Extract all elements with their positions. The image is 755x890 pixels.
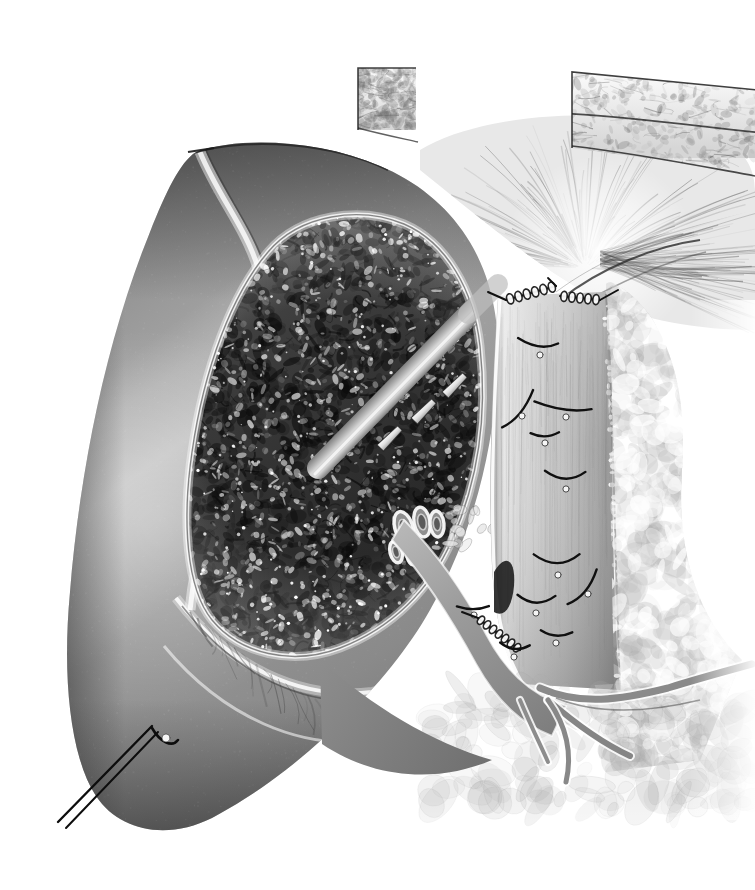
surgical-illustration-figure: Hepatic resection with inferior vena cav… [0,0,755,890]
illustration-canvas [0,0,755,890]
